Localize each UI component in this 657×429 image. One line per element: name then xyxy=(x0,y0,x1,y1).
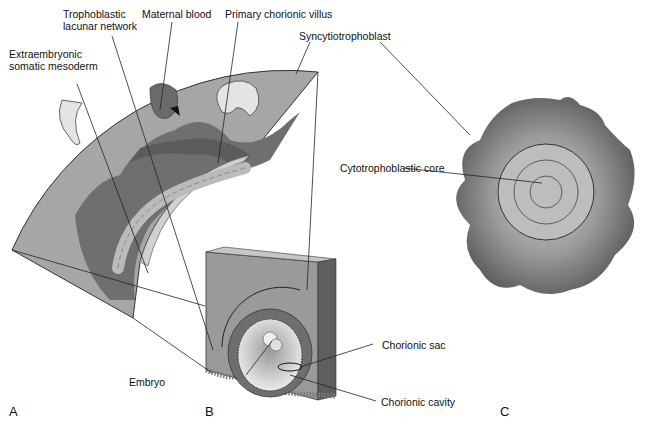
panel-label-a: A xyxy=(9,404,18,419)
panel-label-b: B xyxy=(205,404,214,419)
label-primary-chorionic-villus: Primary chorionic villus xyxy=(225,8,332,20)
label-cytotrophoblastic-core: Cytotrophoblastic core xyxy=(340,162,444,174)
label-trophoblastic-lacunar-network-1: Trophoblastic xyxy=(63,8,126,20)
label-embryo: Embryo xyxy=(129,376,165,388)
label-chorionic-cavity: Chorionic cavity xyxy=(381,396,455,408)
label-syncytiotrophoblast: Syncytiotrophoblast xyxy=(299,30,391,42)
label-chorionic-sac: Chorionic sac xyxy=(382,339,446,351)
label-extraembryonic-somatic-mesoderm-1: Extraembryonic xyxy=(9,48,82,60)
label-maternal-blood: Maternal blood xyxy=(142,8,211,20)
villus-cross-section-c xyxy=(456,97,634,294)
label-trophoblastic-lacunar-network-2: lacunar network xyxy=(63,20,137,32)
panel-label-c: C xyxy=(500,404,509,419)
block-b xyxy=(206,247,336,400)
label-extraembryonic-somatic-mesoderm-2: somatic mesoderm xyxy=(9,60,98,72)
diagram-canvas xyxy=(0,0,657,429)
